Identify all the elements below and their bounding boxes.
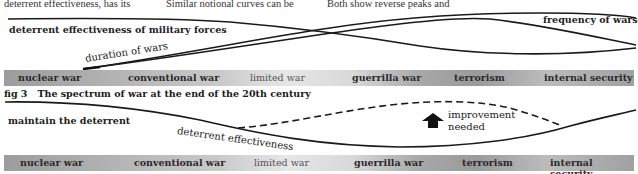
up-arrow-icon (422, 113, 444, 128)
figure-caption: fig 3 The spectrum of war at the end of … (4, 88, 311, 99)
band-bottom-terrorism: terrorism (462, 157, 513, 168)
spectrum-band-top: nuclear war conventional war limited war… (4, 70, 634, 86)
band-top-conventional-war: conventional war (128, 72, 219, 83)
band-top-guerrilla-war: guerrilla war (352, 72, 421, 83)
band-bottom-guerrilla-war: guerrilla war (354, 157, 423, 168)
label-deterrent-effectiveness-military: deterrent effectiveness of military forc… (9, 24, 227, 35)
band-top-internal-security: internal security (544, 72, 633, 83)
label-maintain-deterrent: maintain the deterrent (8, 115, 130, 126)
band-bottom-internal-security: internal security (550, 157, 634, 174)
figure-number: fig 3 (4, 88, 27, 99)
band-bottom-nuclear-war: nuclear war (20, 157, 83, 168)
figure-title: The spectrum of war at the end of the 20… (37, 88, 310, 99)
band-bottom-limited-war: limited war (254, 157, 309, 168)
label-improvement: improvement (448, 109, 515, 120)
band-top-terrorism: terrorism (454, 72, 505, 83)
band-top-nuclear-war: nuclear war (18, 72, 81, 83)
band-bottom-conventional-war: conventional war (134, 157, 225, 168)
curve-start-marker (83, 67, 100, 69)
band-top-limited-war: limited war (250, 72, 305, 83)
label-needed: needed (448, 121, 485, 132)
label-frequency-of-wars: frequency of wars (543, 14, 638, 25)
spectrum-band-bottom: nuclear war conventional war limited war… (4, 155, 634, 171)
